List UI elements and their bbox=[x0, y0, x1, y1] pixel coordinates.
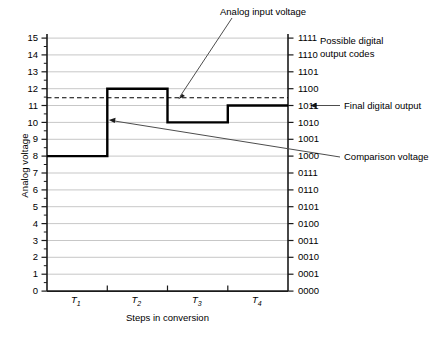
plot-canvas bbox=[0, 0, 446, 337]
digital-code-label: 1101 bbox=[298, 67, 318, 77]
y-tick-label: 12 bbox=[18, 84, 38, 94]
x-tick-label-t2: T2 bbox=[132, 294, 142, 307]
right-axis-code-ticks bbox=[288, 38, 294, 291]
annotation-comparison-voltage: Comparison voltage bbox=[344, 151, 429, 164]
y-tick-label: 3 bbox=[18, 236, 38, 246]
digital-code-label: 1010 bbox=[298, 118, 319, 128]
digital-code-label: 0000 bbox=[298, 286, 319, 296]
y-tick-label: 15 bbox=[18, 33, 38, 43]
digital-code-label: 0001 bbox=[298, 269, 319, 279]
annotation-analog-input-voltage: Analog input voltage bbox=[220, 6, 306, 19]
y-tick-label: 14 bbox=[18, 50, 38, 60]
digital-code-label: 0101 bbox=[298, 202, 319, 212]
digital-code-label: 1111 bbox=[298, 33, 317, 43]
digital-code-label: 0110 bbox=[298, 185, 318, 195]
x-tick-label-t3: T3 bbox=[192, 294, 202, 307]
x-tick-subscript: 4 bbox=[258, 300, 262, 307]
x-tick-label-t1: T1 bbox=[71, 294, 81, 307]
x-tick-subscript: 1 bbox=[77, 300, 81, 307]
x-tick-label-t4: T4 bbox=[252, 294, 262, 307]
y-axis-title: Analog voltage bbox=[19, 106, 30, 226]
y-tick-label: 0 bbox=[18, 286, 38, 296]
x-axis-title: Steps in conversion bbox=[47, 312, 288, 323]
x-tick-subscript: 2 bbox=[137, 300, 141, 307]
digital-code-label: 1001 bbox=[298, 134, 319, 144]
adc-conversion-figure: 15 14 13 12 11 10 9 8 7 6 5 4 3 2 1 0 11… bbox=[0, 0, 446, 337]
x-tick-subscript: 3 bbox=[198, 300, 202, 307]
y-tick-label: 2 bbox=[18, 252, 38, 262]
y-tick-label: 1 bbox=[18, 269, 38, 279]
digital-code-label: 1110 bbox=[298, 50, 318, 60]
digital-code-label: 0111 bbox=[298, 168, 318, 178]
x-axis-ticks bbox=[107, 286, 228, 292]
annotation-final-digital-output: Final digital output bbox=[344, 100, 421, 113]
analog-input-leader-line bbox=[178, 18, 232, 99]
digital-code-label: 0100 bbox=[298, 219, 319, 229]
digital-code-label: 0011 bbox=[298, 236, 318, 246]
annotation-possible-codes-line2: output codes bbox=[320, 48, 374, 61]
y-tick-label: 13 bbox=[18, 67, 38, 77]
digital-code-label: 1100 bbox=[298, 84, 318, 94]
digital-code-label: 1011 bbox=[298, 101, 318, 111]
annotation-possible-codes-line1: Possible digital bbox=[320, 35, 383, 48]
digital-code-label: 1000 bbox=[298, 151, 319, 161]
digital-code-label: 0010 bbox=[298, 252, 319, 262]
